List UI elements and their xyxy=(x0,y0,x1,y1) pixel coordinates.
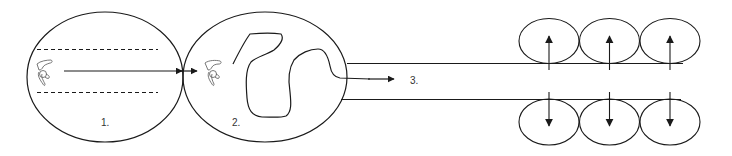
stage-2-ellipse xyxy=(183,12,347,142)
swimmer-icon xyxy=(205,60,221,85)
swimmer-icon xyxy=(37,60,52,86)
stage-1-label: 1. xyxy=(101,117,109,128)
stage-2 xyxy=(178,12,394,142)
stage-2-label: 2. xyxy=(232,117,240,128)
process-diagram: [data-name="meandering-path"] { fill: no… xyxy=(0,0,732,156)
meandering-path xyxy=(233,33,370,117)
stage-3-label: 3. xyxy=(410,75,418,86)
top-circle-row xyxy=(519,19,700,71)
stage-3-channel xyxy=(341,64,683,100)
